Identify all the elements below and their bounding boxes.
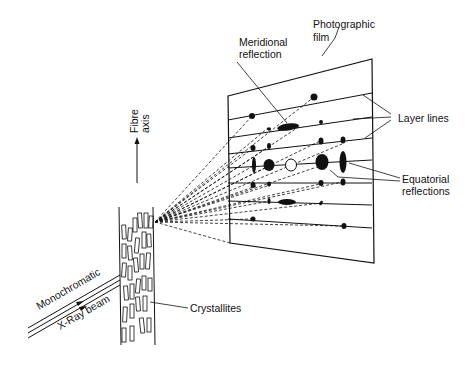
crystallites-label: Crystallites: [190, 302, 241, 314]
equatorial-reflections-label-2: reflections: [402, 185, 450, 197]
meridional-reflection-label: Meridional: [239, 36, 287, 48]
crystallites: [122, 213, 154, 342]
layer-lines: [228, 93, 372, 228]
leader-lines: [150, 27, 400, 308]
fibre-axis-label-2: axis: [139, 114, 151, 133]
meridional-reflection-label-2: reflection: [239, 48, 282, 60]
undiffracted-beam-spot: [286, 159, 297, 171]
photographic-film-label-2: film: [313, 31, 330, 43]
fibre-diffraction-diagram: Photographic film Meridional reflection …: [0, 0, 475, 365]
layer-lines-label: Layer lines: [398, 112, 449, 124]
equatorial-reflections-label: Equatorial: [402, 173, 449, 185]
diffracted-rays: [155, 97, 344, 243]
photographic-film-label: Photographic: [313, 18, 375, 30]
fibre-axis-arrowhead-icon: [135, 137, 140, 144]
